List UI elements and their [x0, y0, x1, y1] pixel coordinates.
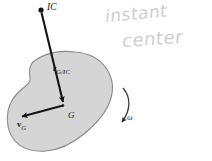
velocity-vector-subscript: G	[21, 124, 26, 131]
handwritten-note-line-2: center	[122, 26, 184, 51]
center-of-mass-label: G	[68, 111, 75, 120]
velocity-vector-label: vG	[17, 120, 26, 131]
center-of-mass-point	[62, 104, 65, 107]
instantaneous-center-point	[38, 7, 43, 12]
position-vector-subscript: G/IC	[56, 68, 70, 75]
ic-label: IC	[47, 3, 57, 13]
angular-velocity-label: ω	[127, 113, 133, 122]
kinematics-figure: IC rG/IC G vG ω instant center	[0, 0, 212, 161]
position-vector-label: rG/IC	[53, 64, 70, 75]
